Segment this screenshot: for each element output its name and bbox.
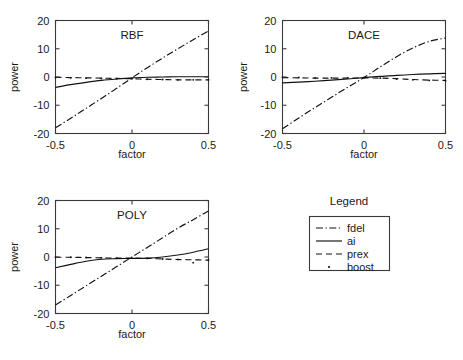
- poly-curves: [55, 211, 210, 305]
- series-point-boost: [116, 78, 118, 80]
- x-tick-label: 0.5: [438, 139, 453, 151]
- series-point-boost: [363, 77, 365, 79]
- series-point-boost: [208, 79, 210, 81]
- y-tick-label: -10: [261, 99, 277, 111]
- poly-xlabel: factor: [118, 328, 146, 340]
- subplot-dace-svg: -20-1001020-0.500.5 DACE factor power: [231, 0, 463, 180]
- legend-svg: Legend fdelaiprexboost: [231, 180, 463, 360]
- subplot-rbf: -20-1001020-0.500.5 RBF factor power: [0, 0, 232, 180]
- y-tick-label: 20: [264, 15, 276, 27]
- series-point-boost: [396, 78, 398, 80]
- x-tick-label: -0.5: [273, 139, 292, 151]
- series-point-boost: [162, 258, 164, 260]
- series-point-boost: [298, 77, 300, 79]
- x-tick-label: -0.5: [46, 139, 65, 151]
- y-tick-label: 10: [37, 223, 49, 235]
- series-point-boost: [208, 259, 210, 261]
- series-point-boost: [85, 77, 87, 79]
- series-point-boost: [192, 79, 194, 81]
- y-tick-label: 20: [37, 15, 49, 27]
- series-line-fdel: [283, 38, 446, 129]
- series-point-boost: [162, 79, 164, 81]
- poly-ylabel: power: [8, 242, 20, 272]
- series-point-boost: [177, 79, 179, 81]
- y-tick-label: 10: [37, 43, 49, 55]
- series-point-boost: [177, 259, 179, 261]
- rbf-title: RBF: [121, 29, 144, 41]
- legend-panel: Legend fdelaiprexboost: [231, 180, 463, 360]
- legend-label-fdel: fdel: [347, 222, 365, 234]
- series-point-boost: [314, 77, 316, 79]
- series-point-boost: [146, 257, 148, 259]
- series-point-boost: [131, 78, 133, 80]
- dace-xlabel: factor: [350, 148, 378, 160]
- legend-label-prex: prex: [347, 248, 369, 260]
- series-point-boost: [347, 77, 349, 79]
- poly-plot-group: -20-1001020-0.500.5 POLY factor power: [8, 195, 216, 341]
- figure-canvas: -20-1001020-0.500.5 RBF factor power -20…: [0, 0, 463, 360]
- series-point-boost: [330, 77, 332, 79]
- dace-title: DACE: [348, 29, 380, 41]
- subplot-poly: -20-1001020-0.500.5 POLY factor power: [0, 180, 232, 360]
- dace-curves: [282, 38, 447, 129]
- series-point-boost: [412, 79, 414, 81]
- series-point-boost: [192, 262, 194, 264]
- y-tick-label: 0: [43, 251, 49, 263]
- y-tick-label: -10: [34, 99, 50, 111]
- dace-ylabel: power: [237, 62, 249, 92]
- x-tick-label: 0.5: [201, 139, 216, 151]
- rbf-ylabel: power: [8, 62, 20, 92]
- series-point-boost: [70, 77, 72, 79]
- dace-plot-group: -20-1001020-0.500.5 DACE factor power: [237, 15, 453, 161]
- legend-label-ai: ai: [347, 235, 356, 247]
- rbf-plot-group: -20-1001020-0.500.5 RBF factor power: [8, 15, 216, 161]
- series-point-boost: [131, 257, 133, 259]
- series-point-boost: [100, 257, 102, 259]
- subplot-rbf-svg: -20-1001020-0.500.5 RBF factor power: [0, 0, 232, 180]
- poly-title: POLY: [117, 209, 147, 221]
- series-point-boost: [116, 257, 118, 259]
- legend-sample-boost: [328, 266, 330, 268]
- y-tick-label: 0: [43, 71, 49, 83]
- series-point-boost: [445, 80, 447, 82]
- rbf-curves: [55, 31, 210, 128]
- series-point-boost: [85, 257, 87, 259]
- y-tick-label: 0: [270, 71, 276, 83]
- y-tick-label: 10: [264, 43, 276, 55]
- subplot-poly-svg: -20-1001020-0.500.5 POLY factor power: [0, 180, 232, 360]
- legend-title: Legend: [330, 195, 368, 207]
- subplot-dace: -20-1001020-0.500.5 DACE factor power: [231, 0, 463, 180]
- series-point-boost: [428, 79, 430, 81]
- legend-label-boost: boost: [347, 261, 374, 273]
- series-point-boost: [379, 77, 381, 79]
- y-tick-label: -10: [34, 279, 50, 291]
- x-tick-label: 0.5: [201, 319, 216, 331]
- series-point-boost: [70, 256, 72, 258]
- series-point-boost: [100, 77, 102, 79]
- y-tick-label: 20: [37, 195, 49, 207]
- rbf-xlabel: factor: [118, 148, 146, 160]
- x-tick-label: -0.5: [46, 319, 65, 331]
- series-point-boost: [146, 78, 148, 80]
